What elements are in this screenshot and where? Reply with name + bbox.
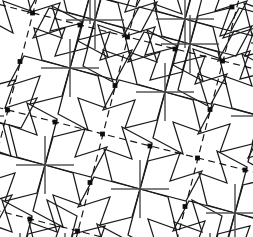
lattice-corner-dot [75, 229, 80, 234]
lattice-midpoint-dot [78, 23, 83, 28]
lattice-corner-dot [195, 156, 200, 161]
lattice-midpoint-dot [230, 5, 235, 10]
lattice-midpoint-dot [28, 217, 33, 222]
lattice-midpoint-dot [53, 120, 58, 125]
lattice-corner-dot [100, 132, 105, 137]
lattice-midpoint-dot [88, 180, 93, 185]
lattice-midpoint-dot [148, 144, 153, 149]
lattice-midpoint-dot [183, 204, 188, 209]
lattice-corner-dot [220, 59, 225, 64]
lattice-midpoint-dot [173, 47, 178, 52]
lattice-midpoint-dot [113, 83, 118, 88]
tiling-figure [0, 0, 253, 237]
tiling-canvas [0, 0, 253, 237]
lattice-corner-dot [30, 11, 35, 16]
lattice-midpoint-dot [208, 107, 213, 112]
lattice-corner-dot [5, 108, 10, 113]
lattice-corner-dot [125, 35, 130, 40]
lattice-midpoint-dot [243, 168, 248, 173]
lattice-midpoint-dot [18, 59, 23, 64]
